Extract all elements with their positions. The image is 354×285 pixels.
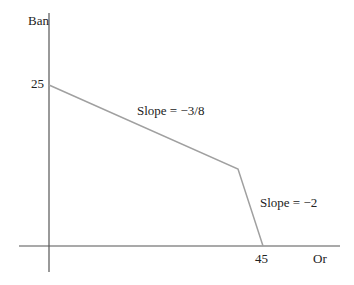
y-axis-label: Ban: [28, 13, 49, 28]
x-axis-label: Or: [313, 251, 327, 266]
ppf-chart: Ban 25 45 Or Slope = −3/8 Slope = −2: [0, 0, 354, 285]
x-tick-45: 45: [255, 251, 268, 266]
y-tick-25: 25: [31, 76, 44, 91]
slope-annotation-2: Slope = −2: [260, 195, 317, 210]
slope-annotation-1: Slope = −3/8: [137, 103, 204, 118]
